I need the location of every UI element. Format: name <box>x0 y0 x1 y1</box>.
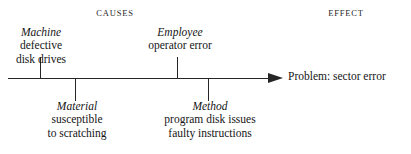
cause-and-effect-diagram: CAUSES EFFECT Machine defective disk dri… <box>0 0 411 154</box>
cause-title-material: Material <box>47 100 106 113</box>
effect-header: EFFECT <box>328 8 364 18</box>
cause-title-employee: Employee <box>148 26 212 39</box>
cause-title-method: Method <box>164 100 255 113</box>
branch-tick-method <box>208 79 209 101</box>
cause-detail-material-2: to scratching <box>47 127 106 140</box>
causes-header: CAUSES <box>96 8 133 18</box>
cause-detail-employee-1: operator error <box>148 39 212 52</box>
cause-block-employee: Employee operator error <box>148 26 212 53</box>
effect-label: Problem: sector error <box>288 70 386 82</box>
branch-tick-material <box>75 79 76 101</box>
cause-detail-machine-1: defective <box>16 39 66 52</box>
branch-tick-employee <box>177 57 178 79</box>
cause-detail-method-2: faulty instructions <box>164 127 255 140</box>
cause-block-material: Material susceptible to scratching <box>47 100 106 140</box>
spine-line <box>8 78 276 79</box>
cause-block-machine: Machine defective disk drives <box>16 26 66 66</box>
cause-detail-machine-2: disk drives <box>16 53 66 66</box>
cause-title-machine: Machine <box>16 26 66 39</box>
arrowhead-icon <box>268 73 283 83</box>
cause-block-method: Method program disk issues faulty instru… <box>164 100 255 140</box>
cause-detail-material-1: susceptible <box>47 113 106 126</box>
cause-detail-method-1: program disk issues <box>164 113 255 126</box>
